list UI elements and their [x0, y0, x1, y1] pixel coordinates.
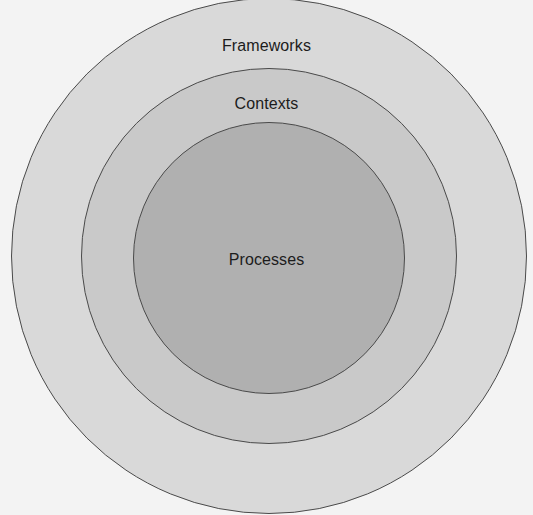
- diagram-canvas: Frameworks Contexts Processes: [0, 0, 533, 515]
- label-contexts: Contexts: [0, 96, 533, 112]
- label-processes: Processes: [0, 252, 533, 268]
- label-frameworks: Frameworks: [0, 38, 533, 54]
